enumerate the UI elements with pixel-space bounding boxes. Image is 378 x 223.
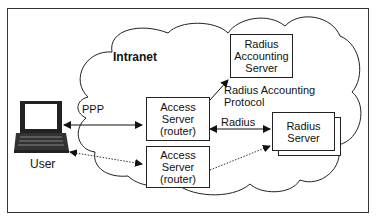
intranet-label: Intranet xyxy=(113,51,157,63)
radius-label: Radius xyxy=(221,116,255,128)
laptop-icon xyxy=(14,101,69,153)
accounting-protocol-label-line2: Protocol xyxy=(224,96,264,108)
radius-server: Radius Server xyxy=(272,112,335,151)
user-label: User xyxy=(30,158,55,170)
access-server-1: Access Server (router) xyxy=(146,97,210,141)
intranet-cloud xyxy=(78,17,361,195)
accounting-protocol-label-line1: Radius Accounting xyxy=(224,84,315,96)
radius-accounting-server: Radius Accounting Server xyxy=(230,34,293,78)
edge-user-access2 xyxy=(70,152,142,164)
access-server-2: Access Server (router) xyxy=(146,146,210,188)
edge-access2-radius xyxy=(210,146,270,170)
ppp-label: PPP xyxy=(82,103,104,115)
